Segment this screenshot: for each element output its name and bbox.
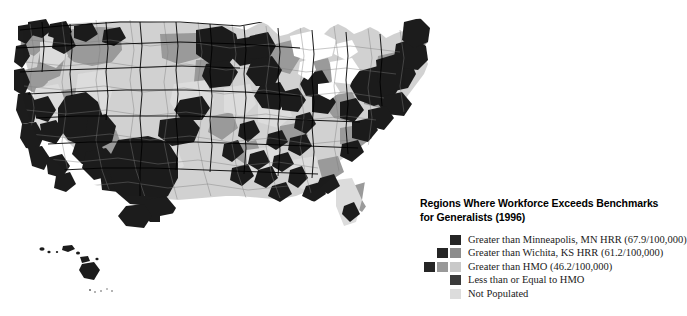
legend-item-label: Greater than HMO (46.2/100,000) xyxy=(468,261,612,273)
legend-swatch-stack xyxy=(416,289,461,299)
figure-choropleth-workforce-benchmarks: Regions Where Workforce Exceeds Benchmar… xyxy=(0,0,687,316)
legend-item-greater-than-hmo: Greater than HMO (46.2/100,000) xyxy=(416,260,684,273)
legend-title: Regions Where Workforce Exceeds Benchmar… xyxy=(420,197,684,224)
legend-items: Greater than Minneapolis, MN HRR (67.9/1… xyxy=(416,233,684,300)
map-svg xyxy=(0,0,460,316)
legend-swatch xyxy=(450,262,461,272)
legend-item-label: Greater than Minneapolis, MN HRR (67.9/1… xyxy=(468,234,687,246)
legend-swatch-stack xyxy=(416,262,461,272)
legend-swatch xyxy=(450,275,461,285)
legend-item-less-than-or-equal-hmo: Less than or Equal to HMO xyxy=(416,274,684,287)
map-inset-hawaii-dots xyxy=(89,288,113,293)
legend-swatch-stack xyxy=(416,235,461,245)
legend-title-line-1: Regions Where Workforce Exceeds Benchmar… xyxy=(420,197,684,211)
legend-item-greater-than-minneapolis: Greater than Minneapolis, MN HRR (67.9/1… xyxy=(416,233,684,246)
legend-item-greater-than-wichita: Greater than Wichita, KS HRR (61.2/100,0… xyxy=(416,247,684,260)
legend-swatch xyxy=(424,262,435,272)
us-choropleth-map xyxy=(0,0,460,316)
legend-swatch xyxy=(450,248,461,258)
map-legend: Regions Where Workforce Exceeds Benchmar… xyxy=(416,197,684,301)
legend-swatch-stack xyxy=(416,248,461,258)
legend-item-label: Less than or Equal to HMO xyxy=(468,274,584,286)
legend-item-not-populated: Not Populated xyxy=(416,287,684,300)
legend-swatch xyxy=(450,235,461,245)
legend-swatch xyxy=(437,248,448,258)
legend-title-line-2: for Generalists (1996) xyxy=(420,211,684,225)
map-inset-hawaii xyxy=(39,245,100,280)
legend-item-label: Greater than Wichita, KS HRR (61.2/100,0… xyxy=(468,247,663,259)
legend-swatch xyxy=(437,262,448,272)
legend-item-label: Not Populated xyxy=(468,288,528,300)
legend-swatch xyxy=(450,289,461,299)
legend-swatch-stack xyxy=(416,275,461,285)
